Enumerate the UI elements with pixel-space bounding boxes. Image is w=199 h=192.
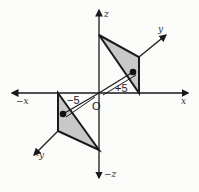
neg-z-label: −z (104, 169, 117, 179)
neg-y-label: -y (36, 150, 45, 160)
z-label: z (103, 9, 109, 19)
coordinate-diagram: z −z x −x y -y O +5 −5 (0, 0, 199, 192)
x-label: x (181, 96, 186, 106)
point-negative (60, 111, 67, 118)
axes-svg: z −z x −x y -y O +5 −5 (0, 0, 199, 192)
y-label: y (157, 24, 164, 34)
origin-label: O (92, 100, 101, 112)
minus-five-label: −5 (67, 94, 80, 106)
point-positive (130, 69, 137, 76)
neg-x-label: −x (16, 96, 29, 106)
y-axis (139, 35, 166, 57)
plus-five-label: +5 (115, 82, 128, 94)
